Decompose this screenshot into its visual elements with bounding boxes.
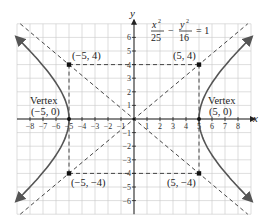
y-tick-label: 5 xyxy=(127,47,131,56)
y-tick-label: −1 xyxy=(122,129,131,138)
x-tick-label: 4 xyxy=(184,122,188,131)
y-tick-label: −6 xyxy=(122,197,131,206)
x-tick-label: −4 xyxy=(78,122,87,131)
x-tick-label: 5 xyxy=(197,122,201,131)
point-marker xyxy=(197,171,201,175)
point-marker xyxy=(197,62,201,66)
y-tick-label: −5 xyxy=(122,183,131,192)
vertex-marker xyxy=(197,117,201,121)
y-tick-label: 6 xyxy=(127,33,131,42)
x-axis-label: x xyxy=(252,112,258,124)
point-marker xyxy=(67,171,71,175)
y-tick-label: −3 xyxy=(122,156,131,165)
x-tick-label: −3 xyxy=(91,122,100,131)
vertex-left-title: Vertex xyxy=(30,95,58,106)
y-tick-label: 2 xyxy=(127,88,131,97)
y-tick-label: 4 xyxy=(127,61,131,70)
vertex-right-coords: (5, 0) xyxy=(209,106,232,118)
point-label-neg5-neg4: (−5, −4) xyxy=(71,177,106,189)
point-label-5-neg4: (5, −4) xyxy=(167,177,196,189)
eq-x-exp: 2 xyxy=(158,18,161,24)
vertex-right-title: Vertex xyxy=(208,95,236,106)
eq-25: 25 xyxy=(151,32,161,43)
vertex-left-coords: (−5, 0) xyxy=(31,106,60,118)
y-tick-label: −2 xyxy=(122,142,131,151)
x-tick-label: −7 xyxy=(39,122,48,131)
y-tick-label: 3 xyxy=(127,74,131,83)
eq-y: y xyxy=(179,19,185,30)
hyperbola-diagram: (−5, 4) (5, 4) (−5, −4) (5, −4) Vertex (… xyxy=(0,0,271,223)
y-tick-label: −4 xyxy=(122,169,131,178)
point-marker xyxy=(67,62,71,66)
point-label-5-4: (5, 4) xyxy=(173,50,196,62)
x-tick-label: 6 xyxy=(210,122,214,131)
x-tick-label: −5 xyxy=(65,122,74,131)
eq-equals: = 1 xyxy=(196,25,209,36)
x-tick-label: 3 xyxy=(171,122,175,131)
eq-16: 16 xyxy=(179,32,189,43)
x-tick-label: −6 xyxy=(52,122,61,131)
eq-y-exp: 2 xyxy=(186,18,189,24)
eq-x: x xyxy=(151,19,157,30)
eq-minus: − xyxy=(168,25,174,36)
y-tick-label: 1 xyxy=(127,101,131,110)
axes xyxy=(17,20,255,214)
origin-marker xyxy=(132,117,135,120)
x-tick-label: 7 xyxy=(223,122,227,131)
point-label-neg5-4: (−5, 4) xyxy=(72,50,101,62)
x-tick-label: −2 xyxy=(104,122,113,131)
x-tick-label: 2 xyxy=(158,122,162,131)
y-axis-label: y xyxy=(129,7,135,19)
vertex-marker xyxy=(67,117,71,121)
x-tick-label: 1 xyxy=(145,122,149,131)
x-tick-label: −8 xyxy=(26,122,35,131)
x-tick-label: 8 xyxy=(236,122,240,131)
